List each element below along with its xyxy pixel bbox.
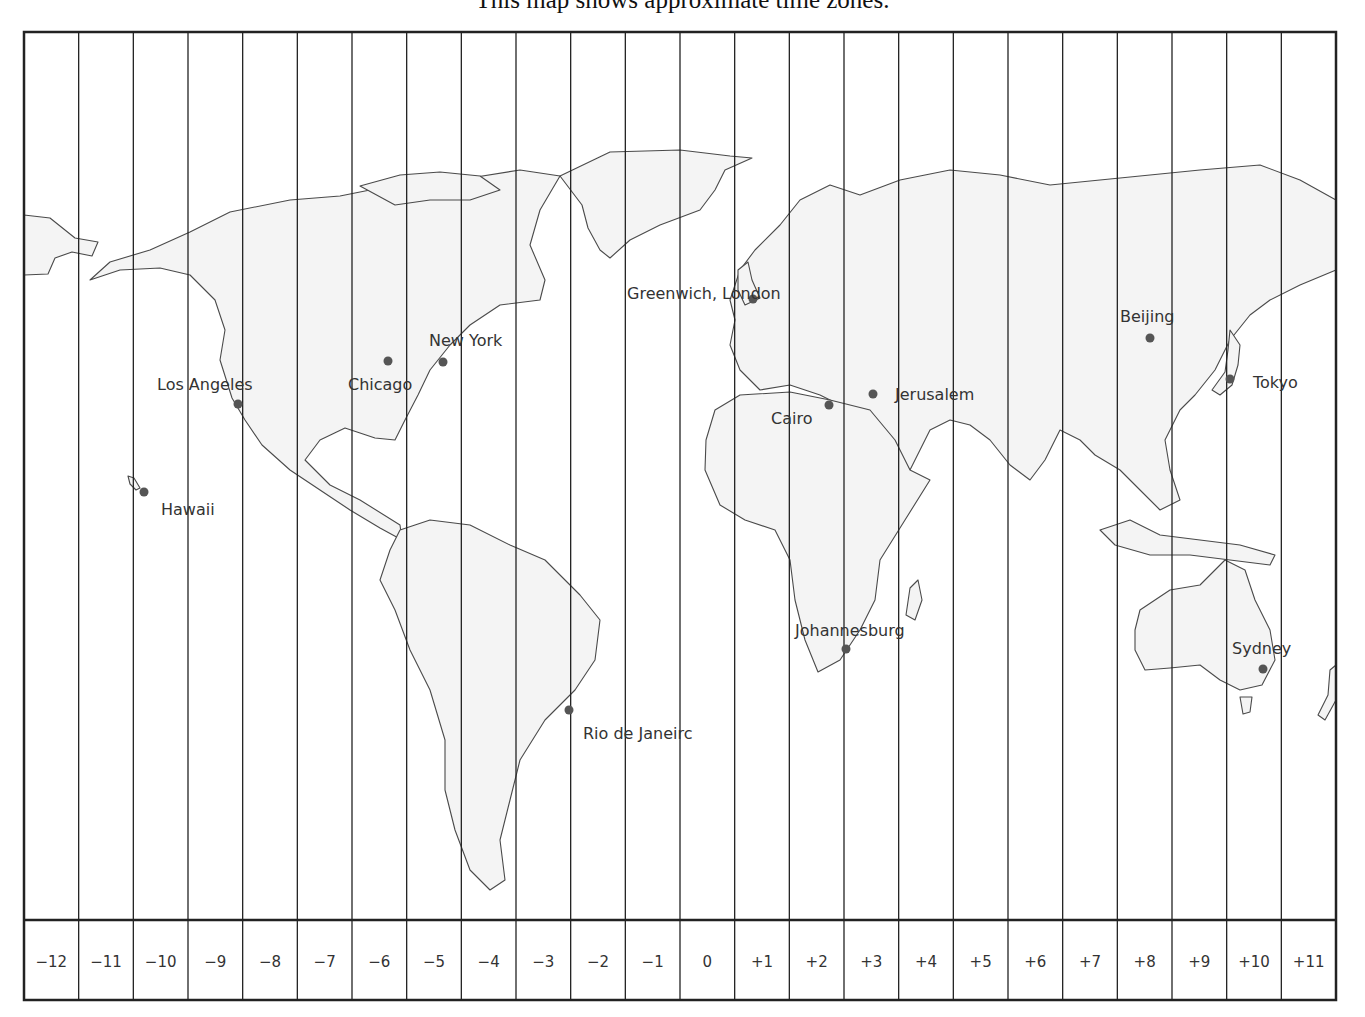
land-south-america	[380, 520, 600, 890]
land-alaska-tip	[24, 215, 98, 275]
city-label: Cairo	[771, 409, 812, 428]
time-zone-label: −9	[204, 953, 226, 971]
land-greenland	[560, 150, 752, 258]
city-marker: Rio de Janeirc	[565, 706, 693, 744]
city-label: Greenwich, London	[627, 284, 781, 303]
city-marker: Hawaii	[140, 488, 215, 520]
city-dot	[140, 488, 149, 497]
city-label: Johannesburg	[794, 621, 905, 640]
city-label: Los Angeles	[157, 375, 253, 394]
city-dot	[869, 390, 878, 399]
land-indonesia	[1100, 520, 1275, 565]
city-dot	[384, 357, 393, 366]
time-zone-label: +4	[915, 953, 937, 971]
city-dot	[842, 645, 851, 654]
time-zone-label: 0	[703, 953, 713, 971]
time-zone-label: −11	[90, 953, 122, 971]
city-marker: Greenwich, London	[627, 284, 781, 304]
city-dot	[234, 400, 243, 409]
time-zone-label: −8	[259, 953, 281, 971]
time-zone-label: +2	[806, 953, 828, 971]
city-label: Rio de Janeirc	[583, 724, 693, 743]
time-zone-label: −12	[36, 953, 68, 971]
time-zone-label: −10	[145, 953, 177, 971]
land-madagascar	[906, 580, 922, 620]
land-new-zealand	[1318, 665, 1336, 720]
city-dot	[825, 401, 834, 410]
time-zone-label: −4	[478, 953, 500, 971]
city-label: Jerusalem	[894, 385, 974, 404]
city-label: Sydney	[1232, 639, 1291, 658]
time-zone-label: +6	[1024, 953, 1046, 971]
time-zone-map: −12−11−10−9−8−7−6−5−4−3−2−10+1+2+3+4+5+6…	[0, 0, 1365, 1017]
city-dot	[1146, 334, 1155, 343]
time-zone-label: +11	[1293, 953, 1325, 971]
time-zone-label: +3	[860, 953, 882, 971]
city-marker: New York	[429, 331, 503, 367]
time-zone-label: +8	[1134, 953, 1156, 971]
time-zone-label: −3	[532, 953, 554, 971]
city-dot	[1259, 665, 1268, 674]
land-australia	[1135, 560, 1275, 690]
city-dot	[1226, 375, 1235, 384]
time-zone-label: −2	[587, 953, 609, 971]
time-zone-label: +5	[970, 953, 992, 971]
city-label: Beijing	[1120, 307, 1174, 326]
city-label: New York	[429, 331, 503, 350]
time-zone-label: +1	[751, 953, 773, 971]
time-zone-label: +7	[1079, 953, 1101, 971]
city-label: Chicago	[348, 375, 412, 394]
land-north-america	[90, 170, 560, 540]
city-label: Hawaii	[161, 500, 215, 519]
land-hawaii	[128, 476, 140, 490]
city-marker: Los Angeles	[157, 375, 253, 409]
city-marker: Tokyo	[1226, 373, 1298, 392]
time-zone-label: −1	[642, 953, 664, 971]
land-tasmania	[1240, 697, 1252, 714]
city-dot	[439, 358, 448, 367]
city-label: Tokyo	[1252, 373, 1298, 392]
time-zone-label: −7	[314, 953, 336, 971]
time-zone-label: −5	[423, 953, 445, 971]
time-zone-label: −6	[368, 953, 390, 971]
city-dot	[565, 706, 574, 715]
time-zone-label: +10	[1238, 953, 1270, 971]
time-zone-label: +9	[1188, 953, 1210, 971]
